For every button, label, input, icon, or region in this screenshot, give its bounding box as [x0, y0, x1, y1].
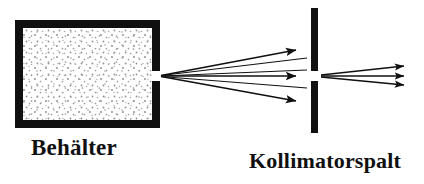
beam-ray-5 — [161, 77, 307, 89]
collimator-slit — [311, 71, 318, 81]
collimated-molecular-beam — [321, 66, 404, 85]
divergent-molecular-beam — [161, 50, 307, 101]
collimator-slit-plate — [311, 8, 318, 133]
collimated-ray-3 — [321, 77, 404, 85]
container-wall-left — [15, 20, 23, 128]
container-aperture — [152, 71, 160, 81]
beam-ray-6 — [161, 77, 296, 102]
container-wall-right-upper — [152, 20, 160, 71]
container-wall-top — [15, 20, 160, 28]
collimator-bar-upper — [311, 8, 318, 71]
figure-canvas: Behälter Kollimatorspalt — [0, 0, 424, 184]
gas-container — [15, 20, 160, 128]
container-wall-right-lower — [152, 81, 160, 128]
container-label: Behälter — [31, 136, 117, 159]
container-wall-bottom — [15, 120, 160, 128]
collimator-bar-lower — [311, 81, 318, 133]
collimator-label: Kollimatorspalt — [249, 150, 401, 172]
collimated-ray-1 — [321, 66, 404, 75]
container-gas-fill-overlay — [22, 27, 153, 121]
